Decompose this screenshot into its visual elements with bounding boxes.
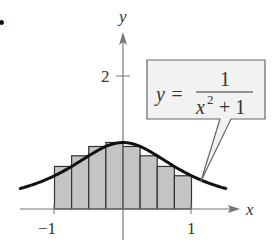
formula-denominator-base: x (195, 96, 205, 118)
formula-denominator-rest: + 1 (219, 96, 245, 118)
riemann-rectangle (140, 156, 157, 209)
riemann-rectangle (123, 146, 140, 209)
riemann-rectangle (157, 166, 174, 209)
formula-callout (147, 60, 265, 181)
x-axis-label: x (245, 200, 254, 219)
x-tick-label-pos1: 1 (187, 219, 196, 238)
bullet-marker: • (0, 12, 5, 34)
riemann-rectangle (174, 176, 191, 209)
formula-numerator: 1 (220, 68, 230, 90)
riemann-sum-chart: • x y −1 1 2 y = 1 x 2 + 1 (0, 0, 275, 247)
formula-lhs: y = (154, 83, 183, 106)
y-axis-label: y (117, 7, 127, 26)
formula-denominator-exp: 2 (207, 92, 214, 107)
y-tick-label-2: 2 (101, 67, 110, 86)
riemann-rectangle (106, 143, 123, 210)
x-tick-label-neg1: −1 (38, 219, 56, 238)
